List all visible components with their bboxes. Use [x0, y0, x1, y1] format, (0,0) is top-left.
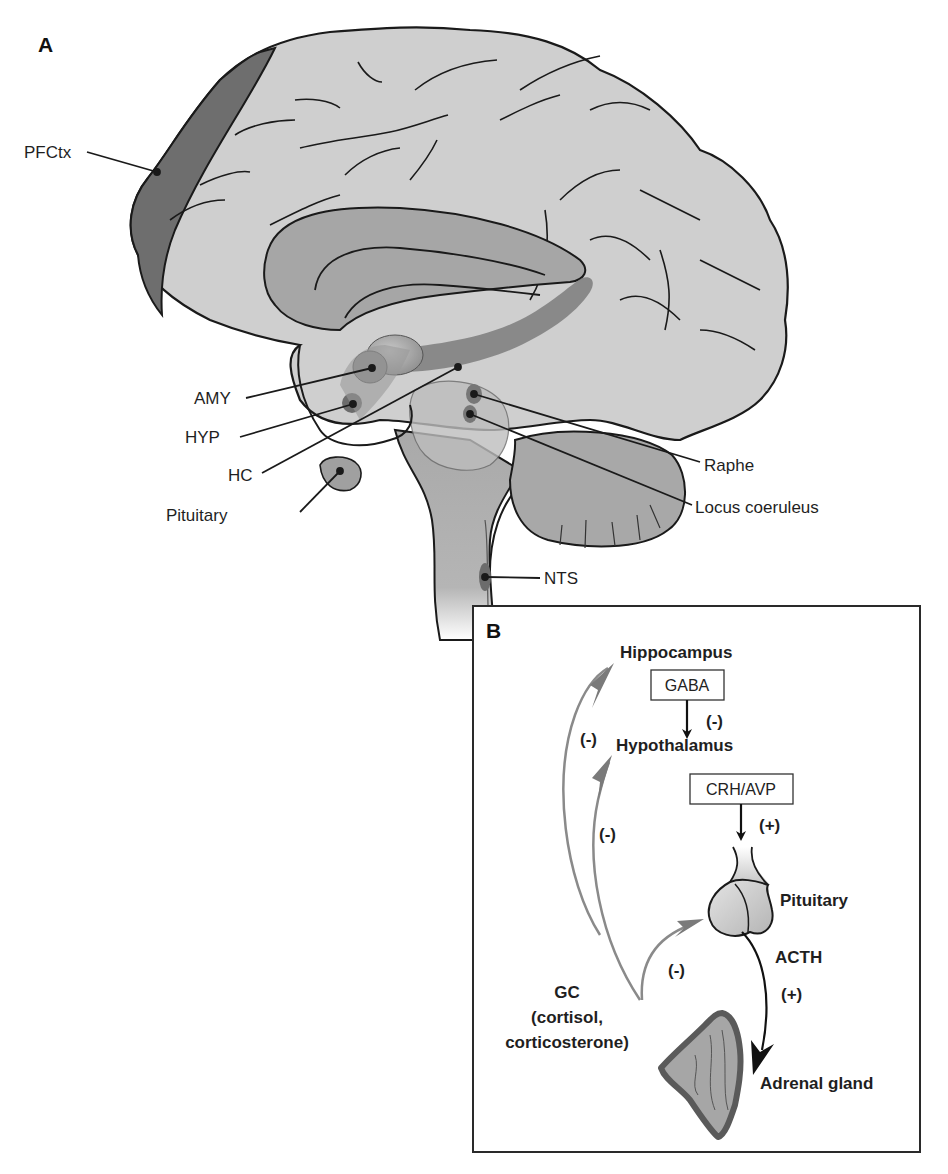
crh-avp-label: CRH/AVP — [706, 781, 776, 798]
label-hc: HC — [228, 466, 253, 485]
label-amy: AMY — [194, 389, 231, 408]
panel-a: A — [24, 27, 819, 640]
node-hypothalamus: Hypothalamus — [616, 736, 733, 755]
panel-b-label: B — [486, 619, 501, 642]
sign-gc-hippocampus: (-) — [580, 730, 597, 749]
label-gc-cortisol: (cortisol, — [531, 1008, 603, 1027]
label-raphe: Raphe — [704, 456, 754, 475]
label-hyp: HYP — [185, 428, 220, 447]
node-pituitary: Pituitary — [780, 891, 849, 910]
label-gc-corticosterone: corticosterone) — [505, 1033, 629, 1052]
panel-b: B Hippocampus GABA (-) (-) Hypothalamus … — [473, 606, 920, 1152]
sign-gaba: (-) — [706, 712, 723, 731]
hpa-axis-figure: A — [0, 0, 948, 1174]
gaba-label: GABA — [665, 677, 710, 694]
panel-a-label: A — [38, 33, 53, 56]
label-acth: ACTH — [775, 948, 822, 967]
sign-gc-pituitary: (-) — [668, 961, 685, 980]
node-adrenal-gland: Adrenal gland — [760, 1074, 873, 1093]
sign-acth: (+) — [781, 985, 802, 1004]
sign-crh: (+) — [759, 816, 780, 835]
sign-gc-hypothalamus: (-) — [599, 825, 616, 844]
label-nts: NTS — [544, 569, 578, 588]
label-pfctx: PFCtx — [24, 143, 72, 162]
label-gc: GC — [554, 983, 580, 1002]
label-pituitary: Pituitary — [166, 506, 228, 525]
label-locus-coeruleus: Locus coeruleus — [695, 498, 819, 517]
node-hippocampus: Hippocampus — [620, 643, 732, 662]
